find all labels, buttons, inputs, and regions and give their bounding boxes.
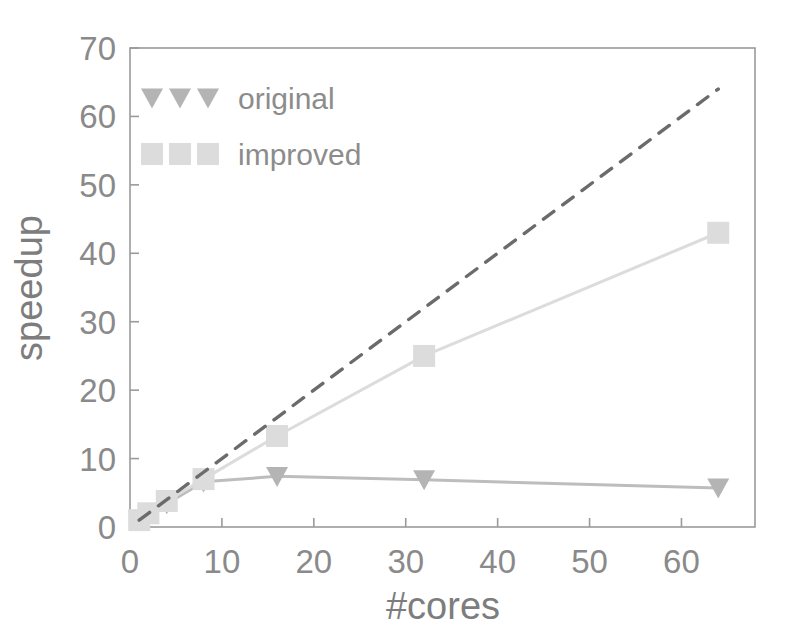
marker-square <box>169 143 191 165</box>
x-tick-label: 40 <box>479 543 516 580</box>
marker-square <box>413 345 435 367</box>
marker-square <box>266 425 288 447</box>
x-tick-label: 20 <box>295 543 332 580</box>
x-axis-title: #cores <box>386 585 500 627</box>
speedup-vs-cores-chart: 010203040506070 0102030405060 originalim… <box>0 0 792 642</box>
chart-figure: 010203040506070 0102030405060 originalim… <box>0 0 792 642</box>
x-tick-label: 10 <box>204 543 241 580</box>
y-tick-label: 20 <box>79 372 116 409</box>
x-tick-label: 50 <box>571 543 608 580</box>
marker-square <box>197 143 219 165</box>
marker-square <box>141 143 163 165</box>
marker-square <box>707 222 729 244</box>
y-tick-label: 0 <box>98 509 116 546</box>
y-axis-title: speedup <box>8 215 50 361</box>
y-tick-label: 10 <box>79 441 116 478</box>
legend-label: improved <box>238 138 361 171</box>
y-tick-label: 60 <box>79 98 116 135</box>
y-tick-label: 30 <box>79 304 116 341</box>
x-tick-label: 30 <box>387 543 424 580</box>
y-tick-label: 40 <box>79 235 116 272</box>
x-tick-label: 60 <box>663 543 700 580</box>
y-tick-label: 50 <box>79 167 116 204</box>
legend-label: original <box>238 82 335 115</box>
x-tick-label: 0 <box>121 543 139 580</box>
y-tick-label: 70 <box>79 30 116 67</box>
